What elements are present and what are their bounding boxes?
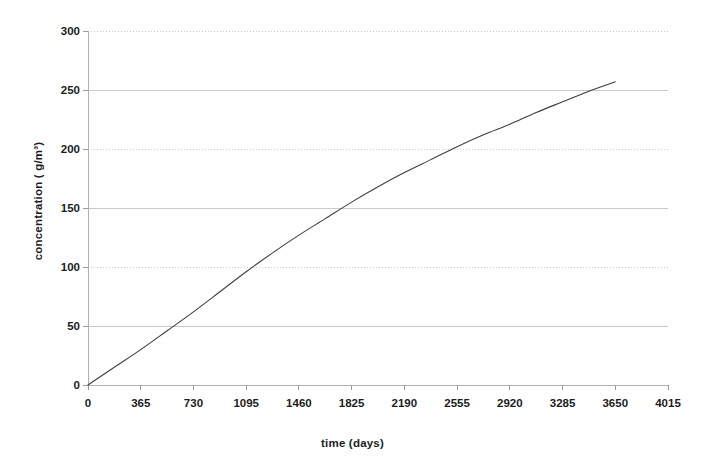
x-tick-label: 2920 xyxy=(497,397,523,409)
y-tick-label: 100 xyxy=(36,261,80,273)
x-tick-label: 3285 xyxy=(550,397,576,409)
x-tick-label: 1825 xyxy=(339,397,365,409)
x-tick-label: 2555 xyxy=(444,397,470,409)
data-series-line xyxy=(88,82,615,385)
chart-container: concentration ( g/m³) time (days) 050100… xyxy=(0,0,705,472)
y-tick-label: 0 xyxy=(36,379,80,391)
y-tick-label: 200 xyxy=(36,143,80,155)
x-tick-label: 1460 xyxy=(286,397,312,409)
x-axis-title: time (days) xyxy=(0,437,705,449)
y-tick-label: 150 xyxy=(36,202,80,214)
y-tick-label: 250 xyxy=(36,84,80,96)
y-axis-ticks xyxy=(83,31,88,385)
x-tick-label: 730 xyxy=(184,397,203,409)
x-tick-label: 1095 xyxy=(233,397,259,409)
x-tick-label: 3650 xyxy=(602,397,628,409)
gridlines xyxy=(88,31,668,385)
x-tick-label: 2190 xyxy=(392,397,418,409)
x-tick-label: 0 xyxy=(85,397,91,409)
x-tick-label: 4015 xyxy=(655,397,681,409)
x-axis-ticks xyxy=(88,385,668,390)
y-tick-label: 50 xyxy=(36,320,80,332)
y-tick-label: 300 xyxy=(36,25,80,37)
x-tick-label: 365 xyxy=(131,397,150,409)
